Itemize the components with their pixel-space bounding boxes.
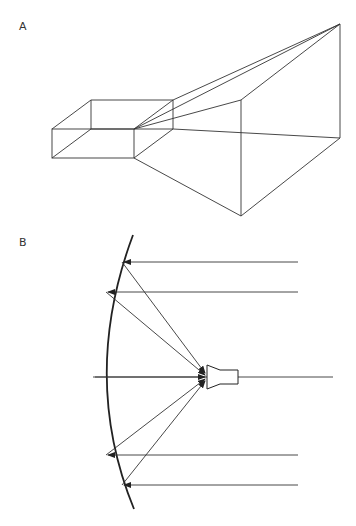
diagram-canvas xyxy=(0,0,356,526)
horn-antenna-figure xyxy=(52,24,340,216)
parabolic-reflector-figure xyxy=(93,235,333,509)
feed-horn xyxy=(207,365,238,389)
reflector-dish xyxy=(107,235,134,509)
